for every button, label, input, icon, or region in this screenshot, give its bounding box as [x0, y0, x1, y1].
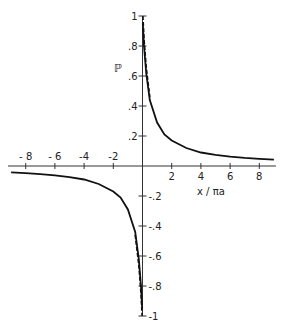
y-tick-label: -1: [149, 311, 159, 322]
y-tick-label: -.6: [149, 251, 162, 262]
solid-negative-curve: [11, 172, 142, 308]
chart-plot: - 8- 6-4-224681.8.6.4.2-.2-.4-.6-.8-1 x …: [0, 0, 281, 327]
y-axis-label: ℙ: [114, 62, 122, 75]
dashed-negative-curve: [135, 235, 142, 316]
y-tick-label: -.4: [149, 221, 162, 232]
y-tick-label: 1: [131, 11, 137, 22]
x-tick-label: -2: [108, 151, 118, 162]
x-tick-label: 8: [256, 171, 262, 182]
x-tick-label: 2: [169, 171, 175, 182]
x-tick-label: - 8: [19, 151, 32, 162]
solid-curve: [143, 24, 274, 160]
x-tick-label: 6: [227, 171, 233, 182]
x-tick-label: 4: [198, 171, 204, 182]
y-tick-label: .8: [128, 41, 138, 52]
y-tick-label: .2: [128, 131, 138, 142]
axes: [8, 16, 276, 316]
y-tick-label: -.2: [149, 191, 162, 202]
y-tick-label: .6: [128, 71, 138, 82]
y-tick-label: -.8: [149, 281, 162, 292]
x-tick-label: - 6: [48, 151, 61, 162]
x-tick-label: -4: [79, 151, 89, 162]
y-tick-label: .4: [128, 101, 138, 112]
x-axis-label: x / πa: [197, 186, 225, 197]
dashed-curve: [143, 16, 150, 97]
